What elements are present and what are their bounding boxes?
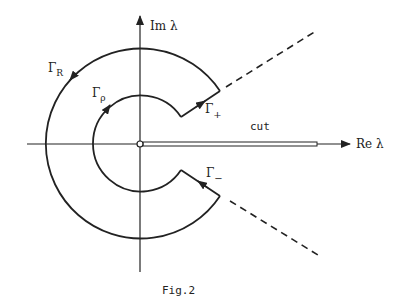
arrow-gamma-plus [196,101,205,107]
label-gamma-rho: Γρ [92,86,106,103]
origin-point [137,141,143,147]
label-gamma-r: ΓR [48,61,63,78]
cut-label: cut [250,120,270,133]
label-gamma-plus: Γ+ [205,102,222,120]
dashed-ray-upper [226,31,316,87]
arrow-gamma-r [70,73,76,80]
branch-cut [143,142,317,146]
arrow-gamma-minus [198,181,208,188]
dashed-ray-lower [230,201,318,255]
figure-caption: Fig.2 [162,284,195,297]
real-axis-label: Re λ [356,137,384,151]
imaginary-axis-label: Im λ [150,19,178,33]
contour-diagram: Im λ Re λ ΓR Γρ Γ+ Γ− cut Fig.2 [0,0,400,300]
label-gamma-minus: Γ− [206,166,223,184]
